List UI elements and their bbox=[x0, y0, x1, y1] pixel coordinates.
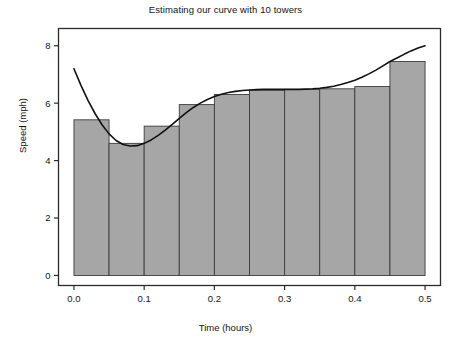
bar bbox=[320, 89, 355, 276]
x-tick-label: 0.0 bbox=[67, 293, 80, 304]
x-tick-label: 0.3 bbox=[278, 293, 291, 304]
x-tick-label: 0.2 bbox=[208, 293, 221, 304]
bar bbox=[179, 105, 214, 276]
bar bbox=[109, 143, 144, 275]
y-tick-label: 6 bbox=[45, 98, 50, 109]
y-tick-label: 2 bbox=[45, 212, 50, 223]
bar bbox=[355, 87, 390, 276]
bar-series bbox=[74, 62, 425, 276]
bar bbox=[250, 90, 285, 275]
chart-figure: Estimating our curve with 10 towers Spee… bbox=[0, 0, 451, 346]
x-tick-label: 0.1 bbox=[138, 293, 151, 304]
plot-area: 02468 0.00.10.20.30.40.5 bbox=[0, 0, 451, 346]
y-tick-label: 4 bbox=[45, 155, 50, 166]
x-axis-ticks: 0.00.10.20.30.40.5 bbox=[67, 286, 431, 304]
x-tick-label: 0.4 bbox=[348, 293, 361, 304]
y-axis-ticks: 02468 bbox=[45, 40, 58, 281]
bar bbox=[390, 62, 425, 276]
x-axis-label: Time (hours) bbox=[0, 322, 451, 333]
x-tick-label: 0.5 bbox=[418, 293, 431, 304]
y-tick-label: 8 bbox=[45, 40, 50, 51]
bar bbox=[214, 95, 249, 276]
bar bbox=[144, 126, 179, 275]
y-tick-label: 0 bbox=[45, 270, 50, 281]
y-axis-label: Speed (mph) bbox=[17, 66, 28, 186]
chart-title: Estimating our curve with 10 towers bbox=[0, 4, 451, 15]
bar bbox=[74, 120, 109, 276]
bar bbox=[285, 89, 320, 275]
